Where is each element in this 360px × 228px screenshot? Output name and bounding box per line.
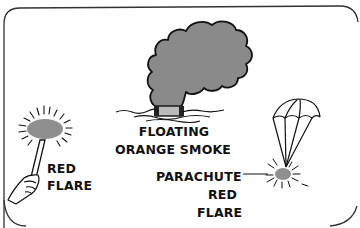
smoke-canister-icon <box>154 106 184 116</box>
red-flare-label-line2: FLARE <box>47 177 92 194</box>
floating-smoke-label-line1: FLOATING <box>128 123 220 140</box>
parachute-flare-label-line2: RED <box>208 186 237 203</box>
parachute-flare-label-line3: FLARE <box>197 204 242 221</box>
parachute-flare-burst-icon <box>243 159 308 188</box>
parachute-flare-label-line1: PARACHUTE <box>156 168 242 185</box>
red-flare-label-line1: RED <box>47 160 92 177</box>
smoke-cloud-icon <box>148 21 252 108</box>
parachute-icon <box>273 99 320 167</box>
floating-smoke-label-line2: ORANGE SMOKE <box>107 141 239 158</box>
red-flare-label: RED FLARE <box>47 160 92 194</box>
flare-stick-icon <box>31 140 45 178</box>
border-frame-bottom <box>4 200 357 226</box>
hand-icon <box>8 175 39 204</box>
